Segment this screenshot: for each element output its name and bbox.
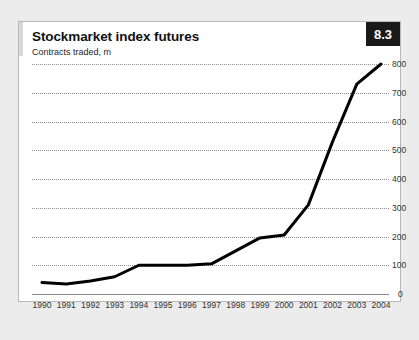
x-axis-tick-label: 1994: [129, 300, 148, 310]
x-axis-tick-label: 1998: [226, 300, 245, 310]
x-axis-tick-label: 2002: [323, 300, 342, 310]
chart-card: Stockmarket index futures Contracts trad…: [18, 21, 401, 302]
chart-figure: Stockmarket index futures Contracts trad…: [0, 0, 419, 340]
data-line-series: [32, 64, 389, 294]
chart-title: Stockmarket index futures: [32, 29, 199, 44]
x-axis-tick-label: 2001: [299, 300, 318, 310]
x-axis-labels-group: 1990199119921993199419951996199719981999…: [32, 300, 389, 314]
y-axis-tick-label: 600: [392, 117, 406, 127]
x-axis-tick-label: 2004: [372, 300, 391, 310]
x-axis-tick-label: 1999: [250, 300, 269, 310]
y-axis-tick-label: 300: [392, 203, 406, 213]
y-axis-tick-label: 700: [392, 88, 406, 98]
x-axis-tick-label: 1992: [81, 300, 100, 310]
x-axis-tick-label: 1991: [57, 300, 76, 310]
x-axis-tick-label: 1996: [178, 300, 197, 310]
y-axis-tick-label: 400: [392, 174, 406, 184]
y-axis-tick-label: 500: [392, 145, 406, 155]
x-axis-tick-label: 1995: [154, 300, 173, 310]
axis-baseline: [32, 294, 389, 295]
y-axis-tick-label: 800: [392, 59, 406, 69]
y-axis-tick-label: 100: [392, 260, 406, 270]
title-accent-bar: [19, 22, 23, 56]
chart-subtitle: Contracts traded, m: [32, 47, 111, 57]
x-axis-tick-label: 2000: [275, 300, 294, 310]
y-axis-tick-label: 0: [398, 289, 403, 299]
x-axis-tick-label: 1990: [33, 300, 52, 310]
x-axis-tick-label: 1993: [105, 300, 124, 310]
plot-area: 0100200300400500600700800: [32, 64, 389, 294]
y-axis-tick-label: 200: [392, 232, 406, 242]
x-axis-tick-label: 1997: [202, 300, 221, 310]
figure-number-badge: 8.3: [366, 22, 400, 46]
x-axis-tick-label: 2003: [347, 300, 366, 310]
